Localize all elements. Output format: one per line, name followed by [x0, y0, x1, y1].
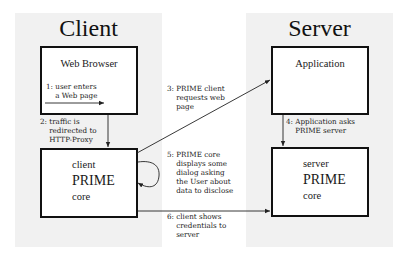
step-3-arrow — [137, 80, 270, 153]
step-5-loop-arrow — [138, 162, 159, 187]
arrows-layer — [0, 0, 408, 261]
